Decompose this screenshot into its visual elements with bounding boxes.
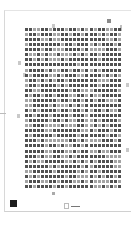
character-glyph: [114, 144, 117, 147]
character-glyph: [33, 69, 36, 72]
character-glyph: [57, 79, 60, 82]
character-glyph: [45, 134, 48, 137]
character-glyph: [29, 155, 32, 158]
character-glyph: [85, 129, 88, 132]
character-glyph: [98, 139, 101, 142]
character-glyph: [77, 129, 80, 132]
character-glyph: [25, 165, 28, 168]
character-glyph: [61, 144, 64, 147]
character-glyph: [90, 175, 93, 178]
character-glyph: [37, 114, 40, 117]
character-glyph: [114, 58, 117, 61]
character-glyph: [85, 94, 88, 97]
character-glyph: [110, 185, 113, 188]
character-glyph: [37, 104, 40, 107]
character-glyph: [90, 94, 93, 97]
character-glyph: [61, 43, 64, 46]
character-glyph: [90, 53, 93, 56]
text-line: [25, 53, 121, 56]
character-glyph: [106, 114, 109, 117]
character-glyph: [69, 165, 72, 168]
character-glyph: [49, 48, 52, 51]
character-glyph: [90, 33, 93, 36]
character-glyph: [53, 48, 56, 51]
character-glyph: [45, 150, 48, 153]
character-glyph: [61, 114, 64, 117]
character-glyph: [69, 150, 72, 153]
character-glyph: [90, 28, 93, 31]
character-glyph: [98, 33, 101, 36]
character-glyph: [25, 84, 28, 87]
character-glyph: [41, 124, 44, 127]
character-glyph: [61, 119, 64, 122]
character-glyph: [41, 180, 44, 183]
character-glyph: [37, 185, 40, 188]
character-glyph: [73, 129, 76, 132]
character-glyph: [41, 89, 44, 92]
character-glyph: [49, 69, 52, 72]
character-glyph: [90, 74, 93, 77]
character-glyph: [37, 109, 40, 112]
character-glyph: [37, 84, 40, 87]
text-line: [25, 124, 121, 127]
character-glyph: [118, 89, 121, 92]
character-glyph: [33, 185, 36, 188]
character-glyph: [106, 69, 109, 72]
character-glyph: [37, 38, 40, 41]
character-glyph: [110, 160, 113, 163]
character-glyph: [77, 124, 80, 127]
character-glyph: [49, 58, 52, 61]
character-glyph: [33, 124, 36, 127]
character-glyph: [77, 104, 80, 107]
character-glyph: [94, 134, 97, 137]
character-glyph: [41, 175, 44, 178]
character-glyph: [65, 144, 68, 147]
character-glyph: [118, 134, 121, 137]
character-glyph: [57, 74, 60, 77]
character-glyph: [73, 144, 76, 147]
character-glyph: [118, 180, 121, 183]
character-glyph: [57, 84, 60, 87]
character-glyph: [29, 185, 32, 188]
character-glyph: [61, 170, 64, 173]
footer-line: [71, 206, 80, 207]
character-glyph: [25, 109, 28, 112]
text-line: [25, 69, 121, 72]
text-line: [25, 119, 121, 122]
character-glyph: [98, 109, 101, 112]
character-glyph: [33, 129, 36, 132]
character-glyph: [41, 63, 44, 66]
character-glyph: [25, 48, 28, 51]
character-glyph: [69, 74, 72, 77]
character-glyph: [118, 160, 121, 163]
character-glyph: [49, 144, 52, 147]
character-glyph: [69, 53, 72, 56]
character-glyph: [94, 104, 97, 107]
character-glyph: [53, 150, 56, 153]
character-glyph: [53, 185, 56, 188]
character-glyph: [110, 109, 113, 112]
character-glyph: [25, 175, 28, 178]
character-glyph: [110, 129, 113, 132]
character-glyph: [85, 139, 88, 142]
character-glyph: [61, 38, 64, 41]
character-glyph: [73, 155, 76, 158]
character-glyph: [94, 43, 97, 46]
character-glyph: [81, 165, 84, 168]
character-glyph: [57, 89, 60, 92]
margin-tick: [0, 113, 6, 114]
character-glyph: [106, 160, 109, 163]
character-glyph: [118, 84, 121, 87]
character-glyph: [25, 160, 28, 163]
character-glyph: [25, 155, 28, 158]
character-glyph: [110, 170, 113, 173]
character-glyph: [94, 58, 97, 61]
character-glyph: [37, 170, 40, 173]
character-glyph: [29, 180, 32, 183]
character-glyph: [77, 165, 80, 168]
character-glyph: [118, 114, 121, 117]
character-glyph: [29, 43, 32, 46]
character-glyph: [81, 53, 84, 56]
character-glyph: [41, 69, 44, 72]
character-glyph: [25, 99, 28, 102]
